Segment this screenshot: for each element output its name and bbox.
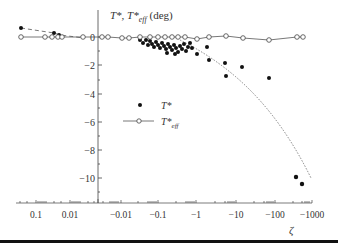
legend-label: T*: [161, 100, 172, 111]
x-tick-label: −10: [229, 210, 244, 220]
y-axis-title: T*, T*eff (deg): [110, 9, 173, 24]
x-axis-title: ζ: [289, 224, 295, 237]
legend-open-circle-icon: [137, 119, 141, 123]
legend-label: T*eff: [161, 116, 179, 130]
legend-label-sub: eff: [172, 122, 179, 130]
legend-label-main: T*: [161, 116, 172, 127]
fit-curve: [180, 40, 311, 178]
y-tick-label: 0: [90, 32, 95, 43]
y-axis-title-unit: (deg): [150, 9, 173, 21]
x-tick-label: −1000: [300, 210, 325, 220]
x-tick-label: −0.01: [110, 210, 132, 220]
y-tick-label: −4: [84, 89, 95, 100]
y-tick-label: −8: [84, 145, 95, 156]
x-tick-label: 0.01: [62, 210, 79, 220]
legend-item-tstar: T*: [161, 96, 179, 114]
x-tick-label: 0.1: [30, 210, 42, 220]
legend: T* T*eff: [161, 96, 179, 132]
y-tick-label: −6: [84, 117, 95, 128]
y-axis-title-main: T*, T*: [110, 9, 139, 21]
y-tick-label: −10: [79, 173, 95, 184]
y-axis-title-sub: eff: [139, 15, 147, 24]
y-tick-label: −2: [84, 60, 95, 71]
x-tick-labels: 0.1 0.01 −0.01 −0.1 −1 −10 −100 −1000: [30, 210, 324, 220]
bottom-rule-divider: [0, 240, 338, 243]
x-tick-label: −100: [265, 210, 285, 220]
x-tick-label: −1: [191, 210, 201, 220]
legend-filled-circle-icon: [138, 103, 142, 107]
x-axis: [16, 199, 312, 203]
y-tick-labels: 0 −2 −4 −6 −8 −10: [79, 32, 95, 184]
legend-item-tstar-eff: T*eff: [161, 114, 179, 132]
x-tick-label: −0.1: [149, 210, 166, 220]
